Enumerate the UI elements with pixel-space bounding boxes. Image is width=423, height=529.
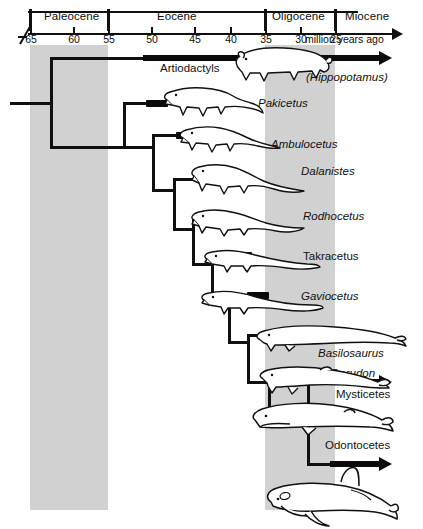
branch-artiodactyls [50, 57, 145, 60]
branch-root-stem [10, 102, 52, 105]
lineage-arrowhead-artiodactyls [379, 51, 392, 65]
branch-cetacea-split [123, 102, 126, 149]
branch-internal-6-split [247, 334, 250, 384]
illustration-dorudon [258, 362, 392, 398]
time-axis-arrowhead [392, 28, 403, 40]
branch-internal-2-split [173, 178, 176, 231]
illustration-dalanistes [190, 162, 306, 200]
illustration-basilosaurus [255, 321, 407, 357]
branch-internal-1 [123, 146, 155, 149]
figure-canvas: Paleocene Eocene Oligocene Miocene 65 60… [0, 0, 423, 529]
cladogram: Artiodactyls (Hippopotamus) Pakicetus Am… [0, 44, 423, 529]
geologic-timeline: Paleocene Eocene Oligocene Miocene 65 60… [0, 0, 423, 46]
lineage-arrow-odontocetes [330, 461, 382, 467]
illustration-baleen-whale [250, 400, 394, 440]
epoch-label-oligocene: Oligocene [272, 10, 325, 22]
branch-root-split [50, 57, 53, 149]
illustration-pakicetus [163, 82, 265, 124]
taxon-label-pakicetus: Pakicetus [258, 97, 308, 109]
branch-cetacea-stem [50, 146, 126, 149]
illustration-gaviocetus [200, 287, 324, 319]
taxon-label-artiodactyls: Artiodactyls [160, 62, 219, 74]
illustration-rodhocetus [190, 206, 306, 240]
taxon-label-dalanistes: Dalanistes [301, 165, 355, 177]
epoch-label-miocene: Miocene [345, 10, 389, 22]
illustration-takracetus [203, 247, 321, 277]
branch-ambulocetus [152, 134, 179, 137]
illustration-ambulocetus [178, 122, 282, 158]
illustration-orca [263, 468, 399, 529]
epoch-label-paleocene: Paleocene [44, 10, 99, 22]
taxon-label-rodhocetus: Rodhocetus [303, 210, 364, 222]
epoch-label-eocene: Eocene [157, 10, 197, 22]
branch-internal-1-split [152, 134, 155, 192]
taxon-label-odontocetes: Odontocetes [325, 439, 390, 451]
